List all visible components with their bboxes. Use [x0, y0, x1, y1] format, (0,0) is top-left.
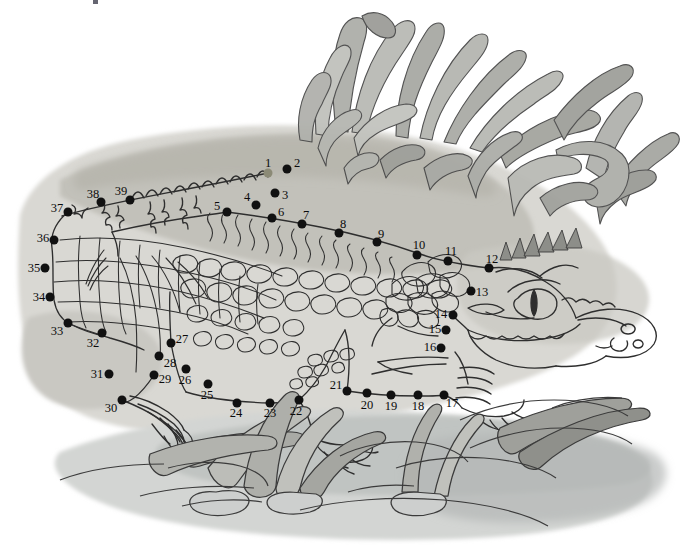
dot-label-27: 27: [176, 333, 189, 346]
dot-label-28: 28: [164, 357, 177, 370]
dot-label-37: 37: [51, 202, 64, 215]
dot-label-2: 2: [294, 157, 300, 170]
dot-label-31: 31: [91, 368, 104, 381]
dot-label-38: 38: [87, 188, 100, 201]
dot-label-23: 23: [264, 407, 277, 420]
dot-27[interactable]: [167, 339, 176, 348]
dot-label-7: 7: [303, 209, 309, 222]
dot-label-14: 14: [435, 308, 448, 321]
dot-20[interactable]: [363, 389, 372, 398]
dot-label-35: 35: [28, 262, 41, 275]
dot-4[interactable]: [252, 201, 261, 210]
dot-label-21: 21: [330, 379, 343, 392]
dot-label-25: 25: [201, 389, 214, 402]
dot-28[interactable]: [155, 352, 164, 361]
dot-label-20: 20: [361, 399, 374, 412]
dot-37[interactable]: [64, 208, 73, 217]
dot-label-33: 33: [51, 325, 64, 338]
dot-6[interactable]: [268, 214, 277, 223]
dot-29[interactable]: [150, 371, 159, 380]
dot-label-29: 29: [159, 373, 172, 386]
print-registration-mark: [93, 0, 98, 4]
dot-label-6: 6: [278, 206, 284, 219]
dot-35[interactable]: [41, 264, 50, 273]
dot-label-4: 4: [244, 191, 250, 204]
dot-label-24: 24: [230, 407, 243, 420]
dot-label-30: 30: [105, 402, 118, 415]
dot-label-5: 5: [214, 200, 220, 213]
dot-label-15: 15: [429, 323, 442, 336]
dot-13[interactable]: [467, 287, 476, 296]
dot-label-10: 10: [413, 239, 426, 252]
dot-16[interactable]: [437, 344, 446, 353]
dot-33[interactable]: [64, 319, 73, 328]
dot-label-19: 19: [385, 400, 398, 413]
dot-11[interactable]: [444, 257, 453, 266]
dot-label-8: 8: [340, 218, 346, 231]
puzzle-artwork: [0, 0, 686, 554]
puzzle-page: 1234567891011121314151617181920212223242…: [0, 0, 686, 554]
dot-label-18: 18: [412, 400, 425, 413]
dot-label-12: 12: [486, 253, 499, 266]
dot-3[interactable]: [271, 189, 280, 198]
dot-label-39: 39: [115, 185, 128, 198]
dot-10[interactable]: [413, 251, 422, 260]
dot-5[interactable]: [223, 208, 232, 217]
dot-31[interactable]: [105, 370, 114, 379]
dot-label-1: 1: [265, 157, 271, 170]
dot-label-34: 34: [33, 291, 46, 304]
dot-label-11: 11: [445, 245, 457, 258]
dot-21[interactable]: [343, 387, 352, 396]
dot-label-32: 32: [87, 337, 100, 350]
dot-1[interactable]: [264, 169, 273, 178]
dot-label-9: 9: [378, 228, 384, 241]
dot-34[interactable]: [46, 293, 55, 302]
dot-label-13: 13: [476, 286, 489, 299]
dot-label-26: 26: [179, 374, 192, 387]
dot-label-17: 17: [446, 397, 459, 410]
dot-14[interactable]: [449, 311, 458, 320]
dot-15[interactable]: [442, 326, 451, 335]
dot-label-36: 36: [37, 232, 50, 245]
dot-label-22: 22: [290, 405, 303, 418]
dot-label-16: 16: [424, 341, 437, 354]
dot-36[interactable]: [50, 236, 59, 245]
dot-30[interactable]: [118, 396, 127, 405]
dot-label-3: 3: [282, 189, 288, 202]
dot-2[interactable]: [283, 165, 292, 174]
